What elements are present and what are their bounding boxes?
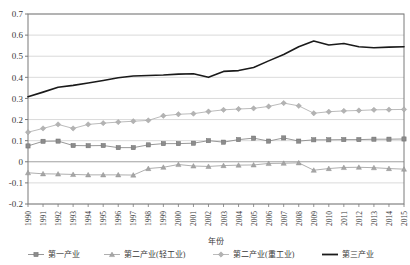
x-axis-tick-label: 1992 [54, 211, 63, 226]
series-none [28, 41, 404, 97]
y-axis-tick-label: 0.7 [12, 9, 24, 19]
legend-item-4[interactable]: 第三产业 [322, 249, 374, 259]
x-axis-tick-label: 2015 [400, 211, 409, 226]
x-axis-tick-label: 1993 [69, 211, 78, 226]
y-axis-tick-label: 0.4 [12, 73, 24, 83]
x-axis-tick-label: 2010 [325, 211, 334, 226]
x-axis-tick-label: 1991 [39, 211, 48, 226]
x-axis-tick-label: 2008 [295, 211, 304, 226]
x-axis-tick-label: 2014 [385, 211, 394, 226]
x-axis-tick-label: 2007 [280, 211, 289, 226]
x-axis-tick-label: 1999 [159, 211, 168, 226]
plot-frame [28, 14, 404, 204]
chart-legend[interactable]: 第一产业第二产业(轻工业)第二产业(重工业)第三产业 [28, 249, 374, 259]
y-axis-tick-label: -0.2 [9, 199, 23, 209]
x-axis-tick-label: 1990 [24, 211, 33, 226]
x-axis-title-label: 年份 [208, 236, 224, 246]
y-axis-tick-label: 0.5 [12, 51, 24, 61]
legend-item-label: 第三产业 [342, 249, 374, 259]
x-axis-tick-label: 2011 [340, 211, 349, 226]
x-axis-ticks: 1990199119921993199419951996199719981999… [24, 204, 409, 226]
line-chart: 0.70.60.50.40.30.20.10-0.1-0.2 199019911… [0, 0, 410, 265]
chart-container: 0.70.60.50.40.30.20.10-0.1-0.2 199019911… [0, 0, 410, 265]
y-axis-tick-label: 0.3 [12, 94, 24, 104]
x-axis-tick-label: 2003 [220, 211, 229, 226]
x-axis-tick-label: 2009 [310, 211, 319, 226]
legend-item-2[interactable]: 第二产业(轻工业) [104, 249, 186, 259]
x-axis-tick-label: 1998 [144, 211, 153, 226]
x-axis-title: 年份 [208, 236, 224, 246]
x-axis-tick-label: 2005 [250, 211, 259, 226]
legend-item-label: 第二产业(轻工业) [124, 249, 186, 259]
x-axis-tick-label: 1994 [84, 211, 93, 226]
x-axis-tick-label: 2000 [174, 211, 183, 226]
x-axis-tick-label: 2002 [204, 211, 213, 226]
legend-item-1[interactable]: 第一产业 [28, 249, 80, 259]
series-diamond [25, 100, 406, 135]
x-axis-tick-label: 2004 [235, 211, 244, 226]
y-axis-ticks: 0.70.60.50.40.30.20.10-0.1-0.2 [9, 9, 28, 209]
y-axis-tick-label: 0.1 [12, 136, 23, 146]
x-axis-tick-label: 2013 [370, 211, 379, 226]
gridlines [28, 14, 404, 204]
x-axis-tick-label: 2001 [189, 211, 198, 226]
legend-item-3[interactable]: 第二产业(重工业) [213, 249, 295, 259]
y-axis-tick-label: -0.1 [9, 178, 23, 188]
series-triangle [25, 160, 406, 177]
y-axis-tick-label: 0 [19, 157, 24, 167]
legend-item-label: 第二产业(重工业) [233, 249, 295, 259]
x-axis-tick-label: 1996 [114, 211, 123, 226]
data-series [25, 41, 406, 177]
series-square [26, 136, 406, 150]
x-axis-tick-label: 1997 [129, 211, 138, 226]
x-axis-tick-label: 1995 [99, 211, 108, 226]
y-axis-tick-label: 0.2 [12, 115, 23, 125]
legend-item-label: 第一产业 [48, 249, 80, 259]
x-axis-tick-label: 2012 [355, 211, 364, 226]
x-axis-tick-label: 2006 [265, 211, 274, 226]
y-axis-tick-label: 0.6 [12, 30, 24, 40]
